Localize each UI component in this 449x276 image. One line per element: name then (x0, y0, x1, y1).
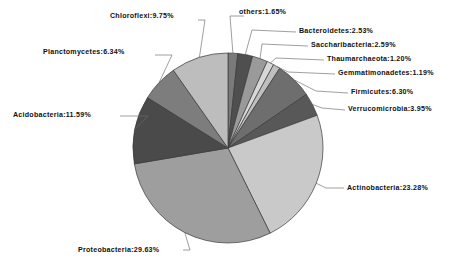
leader-line-thaumarchaeota (270, 58, 324, 63)
slice-label-bacteroidetes: Bacteroidetes:2.53% (299, 27, 373, 36)
pie-chart: others:1.65% Bacteroidetes:2.53% Sacchar… (0, 0, 449, 276)
slice-label-firmicutes: Firmicutes:6.30% (351, 88, 413, 97)
leader-line-chloroflexi (198, 20, 205, 57)
leader-line-others (230, 16, 244, 53)
slice-label-chloroflexi: Chloroflexi:9.75% (110, 12, 174, 21)
slice-label-actinobacteria: Actinobacteria:23.28% (347, 184, 428, 193)
slice-label-gemmatimonadetes: Gemmatimonadetes:1.19% (338, 69, 434, 78)
slice-label-acidobacteria: Acidobacteria:11.59% (13, 111, 91, 120)
leader-line-actinobacteria (316, 183, 344, 188)
pie-slice-group (133, 53, 323, 243)
leader-line-bacteroidetes (245, 30, 296, 55)
slice-label-verrucomicrobia: Verrucomicrobia:3.95% (348, 105, 432, 114)
slice-label-thaumarchaeota: Thaumarchaeota:1.20% (327, 55, 411, 64)
leader-line-saccharibacteria (260, 44, 308, 59)
slice-label-planctomycetes: Planctomycetes:6.34% (43, 48, 125, 57)
leader-line-verrucomicrobia (313, 105, 346, 111)
slice-label-saccharibacteria: Saccharibacteria:2.59% (311, 41, 396, 50)
slice-label-proteobacteria: Proteobacteria:29.63% (78, 246, 159, 255)
slice-label-others: others:1.65% (239, 8, 286, 17)
leader-line-proteobacteria (183, 233, 190, 250)
